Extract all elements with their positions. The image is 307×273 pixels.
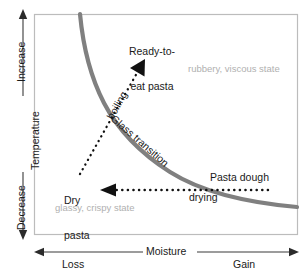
x-axis-right-label: Gain bbox=[233, 258, 255, 270]
drying-label: drying bbox=[189, 192, 218, 204]
dry-pasta-line1: Dry bbox=[64, 195, 90, 207]
pasta-dough-label: Pasta dough bbox=[210, 172, 269, 184]
x-axis-arrowhead-right bbox=[289, 248, 299, 256]
x-axis-left-label: Loss bbox=[62, 258, 84, 270]
x-axis-arrowhead-left bbox=[34, 248, 44, 256]
ready-to-eat-pasta-line1: Ready-to- bbox=[113, 46, 191, 58]
pasta-state-diagram: Ready-to- eat pasta rubbery, viscous sta… bbox=[0, 0, 307, 273]
rubbery-viscous-state-label: rubbery, viscous state bbox=[188, 64, 280, 75]
drying-arrow bbox=[100, 184, 268, 197]
drying-arrow-head bbox=[100, 184, 116, 197]
y-axis-top-label: Increase bbox=[15, 42, 27, 82]
ready-to-eat-pasta-line2: eat pasta bbox=[113, 81, 191, 93]
y-axis-bottom-label: Decrease bbox=[15, 185, 27, 230]
y-axis-arrowhead-up bbox=[19, 9, 27, 19]
dry-pasta-label: Dry pasta bbox=[64, 171, 90, 265]
y-axis-title: Temperature bbox=[29, 111, 41, 170]
x-axis-title: Moisture bbox=[146, 245, 186, 257]
y-axis-arrowhead-down bbox=[19, 230, 27, 240]
dry-pasta-line2: pasta bbox=[64, 230, 90, 242]
